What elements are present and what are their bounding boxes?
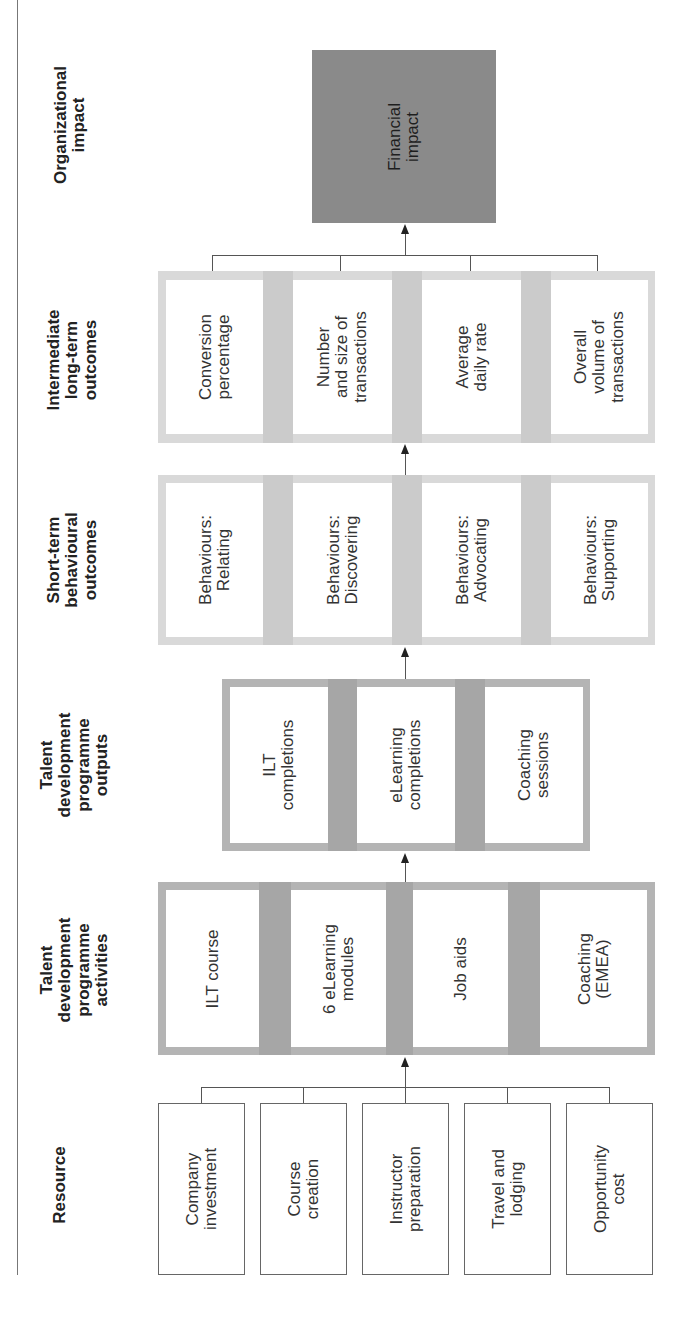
page-rule [17, 0, 18, 1275]
outcome-conversion-percentage: Conversion percentage [166, 280, 263, 434]
resource-instructor-preparation: Instructor preparation [362, 1103, 449, 1275]
connector-line [212, 255, 213, 271]
connector-line [303, 1087, 304, 1103]
stage-label-outputs: Talent development programme outputs [35, 690, 115, 840]
output-coaching-sessions: Coaching sessions [485, 687, 583, 843]
stage-label-intermediate: Intermediate long-term outcomes [40, 290, 105, 430]
resource-opportunity-cost: Opportunity cost [566, 1103, 653, 1275]
resource-company-investment: Company investment [158, 1103, 245, 1275]
connector-line [609, 1087, 610, 1103]
connector-line [470, 255, 471, 271]
connector-line [507, 1087, 508, 1103]
stage-label-activities: Talent development programme activities [35, 895, 115, 1045]
programme-outputs-block: ILT completions eLearning completions Co… [222, 679, 590, 851]
connector-line [201, 1087, 202, 1103]
stage-label-impact: Organizational impact [40, 40, 100, 210]
programme-activities-block: ILT course 6 eLearning modules Job aids … [158, 882, 655, 1055]
behaviour-discovering: Behaviours: Discovering [293, 483, 392, 637]
stage-label-resource: Resource [45, 1120, 75, 1250]
arrow-up-icon [401, 853, 409, 863]
output-elearning-completions: eLearning completions [357, 687, 455, 843]
connector-line [405, 452, 406, 475]
activity-job-aids: Job aids [413, 890, 508, 1047]
output-ilt-completions: ILT completions [230, 687, 328, 843]
outcome-number-size-transactions: Number and size of transactions [293, 280, 392, 434]
outcome-overall-volume-transactions: Overall volume of transactions [551, 280, 648, 434]
outcome-average-daily-rate: Average daily rate [422, 280, 521, 434]
behaviour-advocating: Behaviours: Advocating [422, 483, 521, 637]
activity-coaching-emea: Coaching (EMEA) [540, 890, 647, 1047]
connector-line [405, 1065, 406, 1087]
arrow-up-icon [401, 444, 409, 454]
connector-line [340, 255, 341, 271]
resource-travel-lodging: Travel and lodging [464, 1103, 551, 1275]
activity-ilt-course: ILT course [166, 890, 259, 1047]
connector-line [405, 655, 406, 679]
financial-impact-box: Financial impact [312, 50, 496, 223]
connector-line [405, 232, 406, 255]
stage-label-short-term: Short-term behavioural outcomes [40, 495, 105, 625]
connector-line [405, 1087, 406, 1103]
arrow-up-icon [401, 647, 409, 657]
behaviour-supporting: Behaviours: Supporting [551, 483, 648, 637]
connector-line [212, 255, 598, 256]
arrow-up-icon [401, 1057, 409, 1067]
connector-line [405, 861, 406, 882]
short-term-outcomes-block: Behaviours: Relating Behaviours: Discove… [158, 475, 655, 645]
behaviour-relating: Behaviours: Relating [166, 483, 263, 637]
activity-elearning-modules: 6 eLearning modules [291, 890, 386, 1047]
arrow-up-icon [401, 224, 409, 234]
connector-line [597, 255, 598, 271]
intermediate-outcomes-block: Conversion percentage Number and size of… [158, 271, 655, 443]
resource-course-creation: Course creation [260, 1103, 347, 1275]
